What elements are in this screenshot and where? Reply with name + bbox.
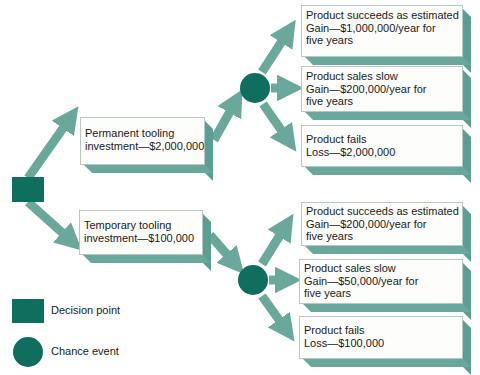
alternative-label: Temporary tooling bbox=[84, 219, 198, 232]
arrow-chance1-fails bbox=[263, 104, 284, 134]
legend-chance-swatch bbox=[13, 337, 43, 367]
outcome-value: Gain—$1,000,000/year for bbox=[306, 22, 458, 35]
decision-point-node bbox=[12, 177, 44, 202]
box-3d-bottom bbox=[303, 359, 471, 367]
outcome-box-temporary-succeeds: Product succeeds as estimated Gain—$200,… bbox=[301, 202, 463, 246]
chance-event-node-temporary bbox=[238, 265, 268, 295]
outcome-duration: five years bbox=[306, 95, 458, 108]
outcome-title: Product fails bbox=[306, 133, 458, 146]
legend-decision-label: Decision point bbox=[51, 304, 120, 316]
box-3d-bottom bbox=[305, 57, 471, 65]
alternative-box-permanent: Permanent tooling investment—$2,000,000 bbox=[80, 117, 205, 165]
outcome-box-permanent-succeeds: Product succeeds as estimated Gain—$1,00… bbox=[301, 5, 463, 57]
outcome-title: Product succeeds as estimated bbox=[306, 205, 458, 218]
box-3d-bottom bbox=[305, 112, 471, 120]
outcome-title: Product fails bbox=[304, 324, 458, 337]
alternative-cost: investment—$100,000 bbox=[84, 232, 198, 245]
arrow-chance2-fails bbox=[262, 296, 282, 324]
box-3d-bottom bbox=[84, 165, 213, 173]
outcome-title: Product sales slow bbox=[304, 262, 458, 275]
chance-event-node-permanent bbox=[240, 73, 270, 103]
arrow-temporary-to-chance bbox=[210, 235, 230, 258]
outcome-value: Gain—$200,000/year for bbox=[306, 83, 458, 96]
box-3d-bottom bbox=[303, 304, 471, 312]
box-3d-bottom bbox=[305, 246, 471, 254]
outcome-value: Gain—$200,000/year for bbox=[306, 218, 458, 231]
outcome-duration: five years bbox=[306, 34, 458, 47]
outcome-title: Product succeeds as estimated bbox=[306, 9, 458, 22]
outcome-box-temporary-fails: Product fails Loss—$100,000 bbox=[299, 316, 463, 359]
legend-decision-swatch bbox=[12, 299, 44, 323]
outcome-box-temporary-slow: Product sales slow Gain—$50,000/year for… bbox=[299, 259, 463, 304]
arrow-to-temporary bbox=[28, 202, 66, 236]
outcome-duration: five years bbox=[304, 287, 458, 300]
alternative-box-temporary: Temporary tooling investment—$100,000 bbox=[79, 210, 203, 255]
outcome-box-permanent-fails: Product fails Loss—$2,000,000 bbox=[301, 125, 463, 167]
outcome-value: Loss—$2,000,000 bbox=[306, 146, 458, 159]
outcome-title: Product sales slow bbox=[306, 70, 458, 83]
legend-chance-label: Chance event bbox=[51, 345, 119, 357]
box-3d-bottom bbox=[305, 167, 471, 175]
alternative-cost: investment—$2,000,000 bbox=[85, 140, 200, 153]
outcome-box-permanent-slow: Product sales slow Gain—$200,000/year fo… bbox=[301, 66, 463, 112]
outcome-value: Loss—$100,000 bbox=[304, 337, 458, 350]
arrow-to-permanent bbox=[28, 124, 66, 178]
outcome-duration: five years bbox=[306, 230, 458, 243]
outcome-value: Gain—$50,000/year for bbox=[304, 275, 458, 288]
arrow-chance2-succeeds bbox=[262, 232, 282, 264]
arrow-permanent-to-chance bbox=[214, 108, 232, 140]
alternative-label: Permanent tooling bbox=[85, 127, 200, 140]
box-3d-bottom bbox=[83, 255, 211, 263]
arrow-chance1-succeeds bbox=[262, 38, 284, 72]
